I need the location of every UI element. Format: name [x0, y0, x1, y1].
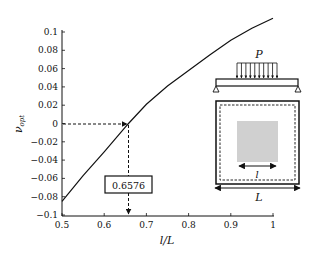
- y-ticks: 0.10.080.060.040.020−0.02−0.04−0.06−0.08…: [30, 27, 65, 220]
- support-right-icon: [295, 86, 301, 92]
- y-tick-label: 0.06: [38, 64, 58, 74]
- y-tick-label: −0.04: [30, 155, 58, 165]
- y-tick-label: −0.1: [36, 210, 58, 220]
- x-tick-label: 0.7: [139, 220, 154, 230]
- x-tick-label: 0.5: [55, 220, 70, 230]
- chart: 0.10.080.060.040.020−0.02−0.04−0.06−0.08…: [0, 0, 313, 259]
- inset-diagram: P l L: [213, 48, 301, 204]
- patch: [237, 121, 278, 162]
- y-tick-label: −0.02: [30, 137, 58, 147]
- x-tick-label: 1: [270, 220, 276, 230]
- inner-dim-label: l: [255, 169, 258, 180]
- y-tick-label: 0.02: [38, 100, 58, 110]
- x-tick-label: 0.9: [224, 220, 239, 230]
- y-tick-label: 0.08: [38, 45, 58, 55]
- support-left-icon: [213, 86, 219, 92]
- y-tick-label: −0.06: [30, 173, 58, 183]
- y-tick-label: 0.04: [38, 82, 58, 92]
- distributed-load-icon: [237, 63, 277, 78]
- y-tick-label: 0.1: [44, 27, 58, 37]
- outer-dim-label: L: [254, 191, 262, 204]
- x-tick-label: 0.6: [97, 220, 112, 230]
- beam: [216, 79, 298, 86]
- x-tick-label: 0.8: [181, 220, 196, 230]
- load-label: P: [254, 48, 263, 61]
- x-axis-label: l/L: [160, 234, 175, 247]
- y-tick-label: −0.08: [30, 192, 58, 202]
- value-label: 0.6576: [112, 180, 145, 191]
- svg-text:νopt: νopt: [12, 115, 26, 133]
- y-axis-label: νopt: [12, 115, 26, 133]
- y-tick-label: 0: [52, 119, 58, 129]
